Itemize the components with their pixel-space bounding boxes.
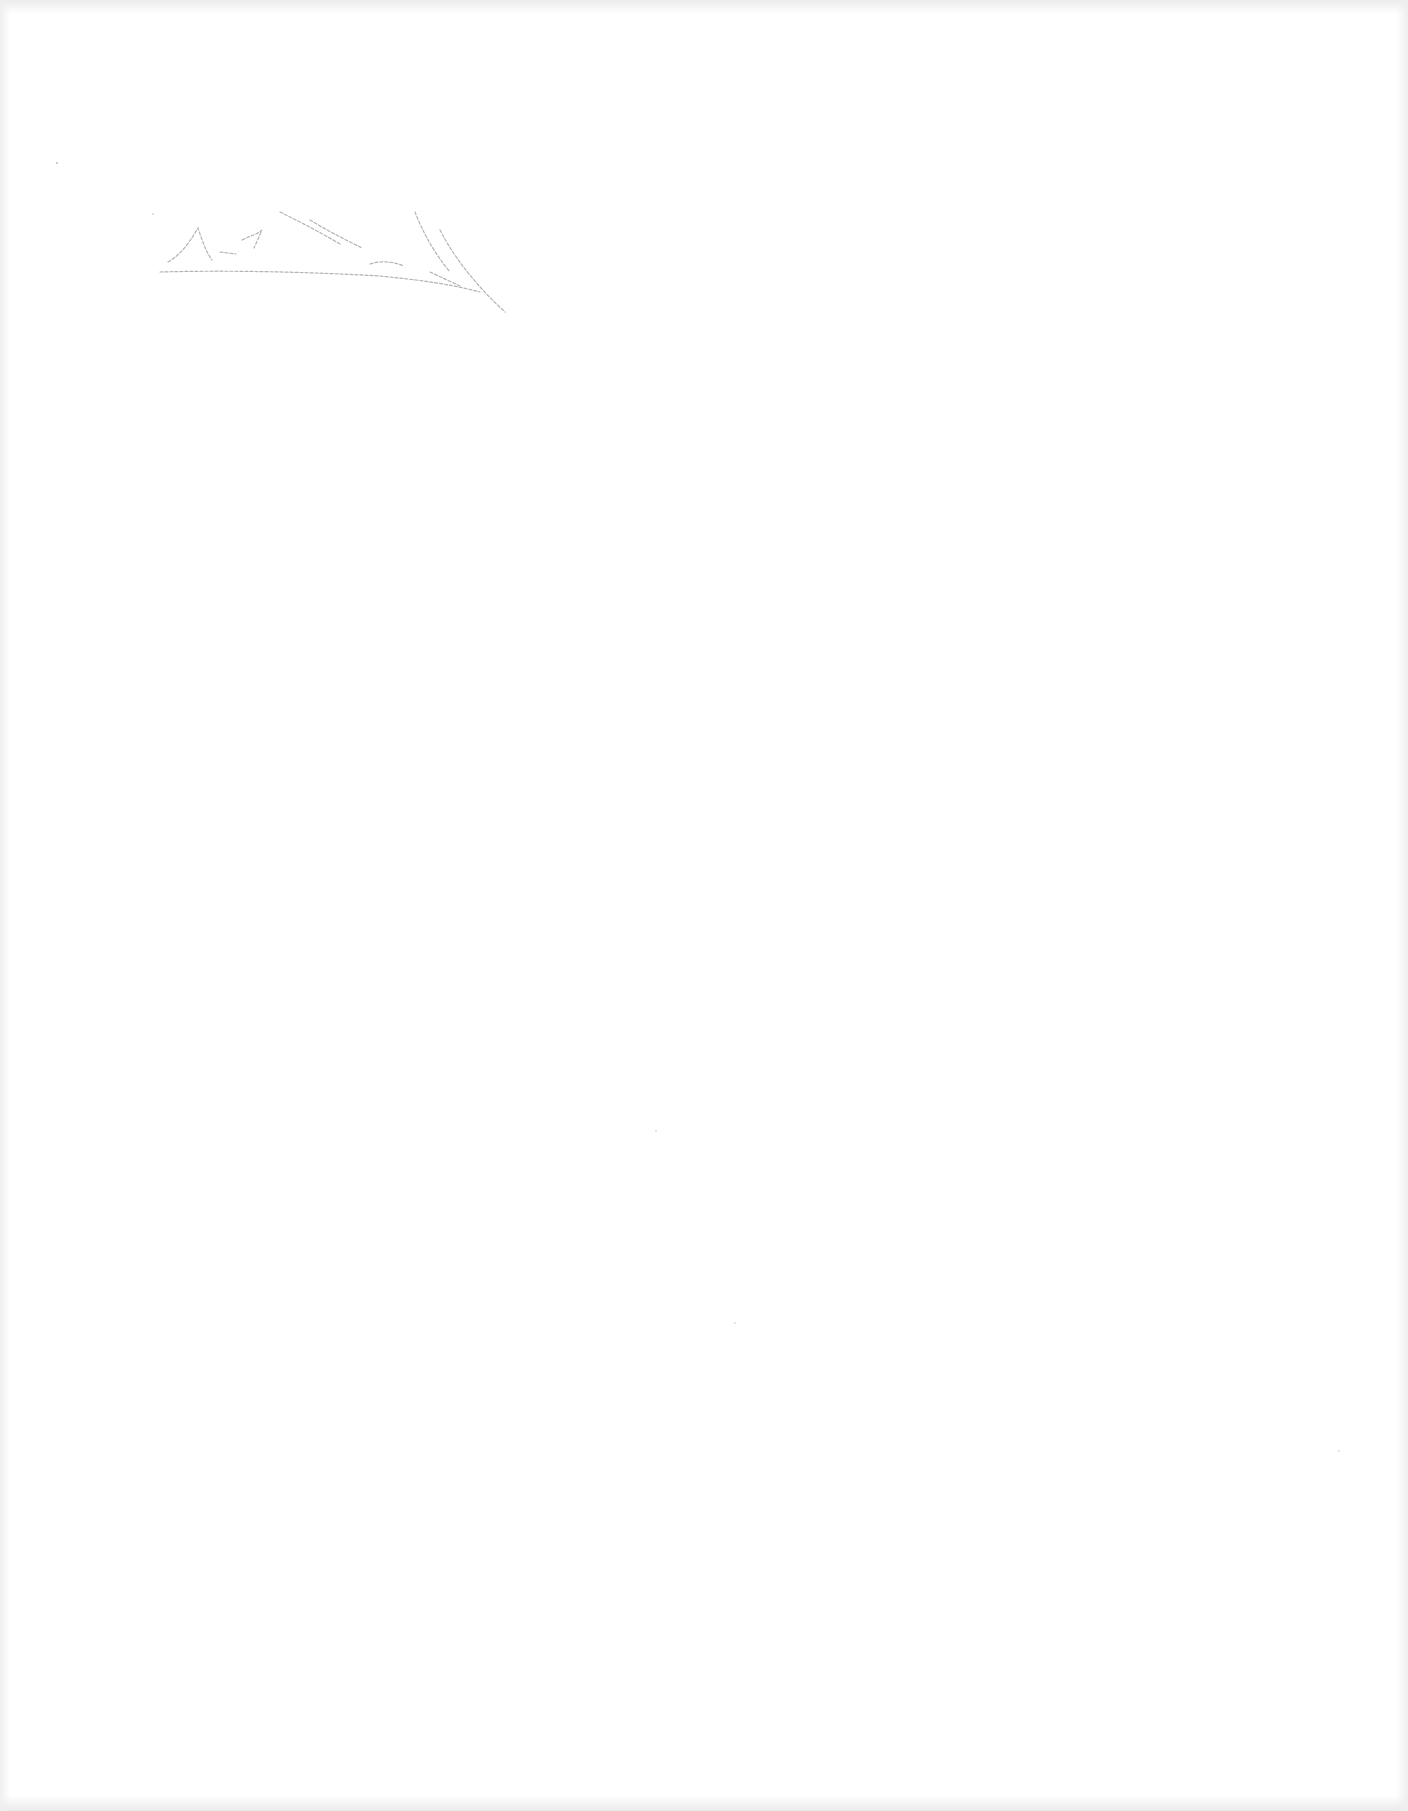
scan-edge-left <box>0 0 10 1811</box>
scan-speck <box>1338 1450 1340 1452</box>
scan-edge-top <box>0 0 1408 14</box>
scan-speck <box>655 1130 657 1132</box>
scanned-page <box>0 0 1408 1811</box>
scan-speck <box>734 1322 736 1324</box>
scan-edge-right <box>1396 0 1408 1811</box>
scan-speck <box>152 213 154 215</box>
scan-speck <box>56 162 58 164</box>
pencil-scribble <box>150 200 600 330</box>
scan-edge-bottom <box>0 1795 1408 1811</box>
